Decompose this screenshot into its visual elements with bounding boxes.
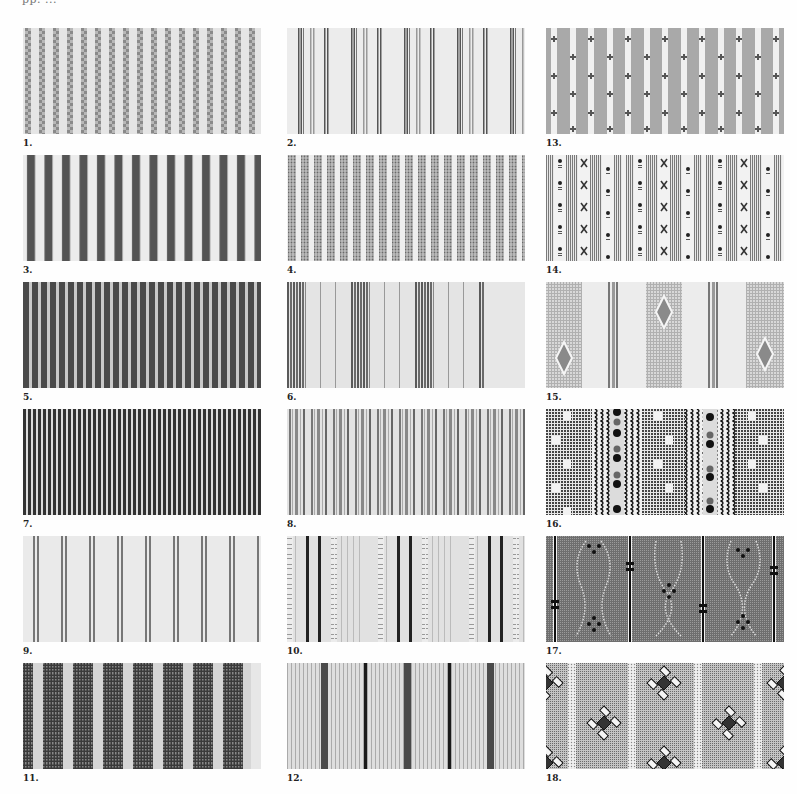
swatch-label: 5.	[23, 392, 32, 402]
swatch-label: 15.	[546, 392, 562, 402]
swatch-label: 4.	[287, 265, 296, 275]
swatch-label: 16.	[546, 519, 562, 529]
swatch-label: 2.	[287, 138, 296, 148]
fabric-swatch-image	[287, 409, 525, 515]
fabric-swatch-image	[287, 282, 525, 388]
fabric-swatch-image	[546, 28, 784, 134]
swatch-label: 3.	[23, 265, 32, 275]
fabric-swatch-image	[23, 282, 261, 388]
swatch-label: 6.	[287, 392, 296, 402]
swatch-label: 18.	[546, 773, 562, 783]
swatch-label: 8.	[287, 519, 296, 529]
fabric-swatch-image	[546, 155, 784, 261]
swatch-label: 14.	[546, 265, 562, 275]
fabric-swatch-image	[23, 155, 261, 261]
swatch-label: 9.	[23, 646, 32, 656]
fabric-swatch-image	[23, 28, 261, 134]
fabric-swatch-image	[546, 663, 784, 769]
page-header: pp. ...	[22, 0, 57, 6]
fabric-swatch-image	[546, 536, 784, 642]
swatch-label: 1.	[23, 138, 32, 148]
fabric-swatch-image	[23, 409, 261, 515]
fabric-swatch-image	[23, 663, 261, 769]
fabric-swatch-image	[546, 409, 784, 515]
fabric-swatch-image	[287, 536, 525, 642]
fabric-swatch-image	[23, 536, 261, 642]
swatch-label: 12.	[287, 773, 303, 783]
swatch-label: 7.	[23, 519, 32, 529]
swatch-label: 17.	[546, 646, 562, 656]
swatch-label: 10.	[287, 646, 303, 656]
fabric-swatch-image	[287, 155, 525, 261]
swatch-label: 13.	[546, 138, 562, 148]
swatch-label: 11.	[23, 773, 39, 783]
fabric-swatch-image	[287, 28, 525, 134]
fabric-swatch-image	[287, 663, 525, 769]
fabric-swatch-image	[546, 282, 784, 388]
